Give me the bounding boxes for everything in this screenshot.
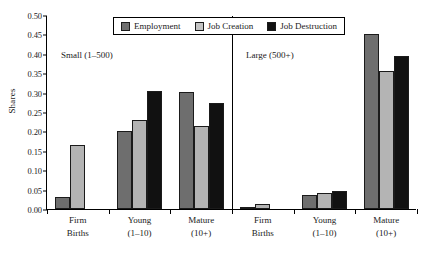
legend-swatch-icon-employment bbox=[121, 22, 130, 31]
bar bbox=[302, 195, 317, 209]
bar bbox=[364, 34, 379, 209]
bar-group-bars bbox=[294, 16, 356, 209]
bar bbox=[70, 145, 85, 209]
bar bbox=[240, 207, 255, 209]
x-axis-label-line: Firm bbox=[69, 215, 87, 225]
x-axis-label-line: Young bbox=[313, 215, 337, 225]
bar bbox=[332, 191, 347, 209]
bar bbox=[317, 193, 332, 209]
bar bbox=[255, 204, 270, 209]
x-axis-label-line: (10+) bbox=[343, 227, 429, 240]
bar bbox=[209, 103, 224, 209]
bar-group-bars bbox=[170, 16, 232, 209]
bar-group-bars bbox=[232, 16, 294, 209]
x-axis-label-line: Mature bbox=[373, 215, 399, 225]
bar-group-bars bbox=[47, 16, 109, 209]
legend-item-job-creation: Job Creation bbox=[195, 21, 254, 31]
panel-small: Small (1–500) bbox=[47, 16, 232, 209]
bar bbox=[194, 126, 209, 209]
legend-label-job-destruction: Job Destruction bbox=[280, 21, 337, 31]
legend-label-employment: Employment bbox=[134, 21, 181, 31]
x-axis-tick-mark bbox=[417, 209, 418, 214]
bar bbox=[179, 92, 194, 209]
x-axis-label: Mature(10+) bbox=[343, 214, 429, 240]
bar-group bbox=[232, 16, 294, 209]
bar bbox=[147, 91, 162, 209]
bar-group-bars bbox=[109, 16, 171, 209]
bar bbox=[132, 120, 147, 209]
bar-group-bars bbox=[355, 16, 417, 209]
bar bbox=[55, 197, 70, 209]
bar-group bbox=[355, 16, 417, 209]
panel-large: Large (500+) bbox=[232, 16, 417, 209]
plot-area: 0.000.050.100.150.200.250.300.350.400.45… bbox=[46, 16, 416, 210]
bar-group bbox=[170, 16, 232, 209]
legend-swatch-icon-job-destruction bbox=[267, 22, 276, 31]
chart-legend: Employment Job Creation Job Destruction bbox=[113, 17, 345, 35]
legend-swatch-icon-job-creation bbox=[195, 22, 204, 31]
bar-group bbox=[109, 16, 171, 209]
bar-chart: Shares 0.000.050.100.150.200.250.300.350… bbox=[0, 0, 432, 258]
x-axis-label-line: Mature bbox=[188, 215, 214, 225]
legend-item-employment: Employment bbox=[121, 21, 181, 31]
x-axis-label-line: Firm bbox=[254, 215, 272, 225]
legend-item-job-destruction: Job Destruction bbox=[267, 21, 337, 31]
legend-label-job-creation: Job Creation bbox=[208, 21, 254, 31]
bar-group bbox=[47, 16, 109, 209]
y-axis-title: Shares bbox=[7, 71, 17, 131]
bar bbox=[117, 131, 132, 209]
bar bbox=[394, 56, 409, 209]
x-axis-label-line: Young bbox=[128, 215, 152, 225]
bar bbox=[379, 71, 394, 209]
panel-divider bbox=[232, 16, 233, 209]
bar-group bbox=[294, 16, 356, 209]
